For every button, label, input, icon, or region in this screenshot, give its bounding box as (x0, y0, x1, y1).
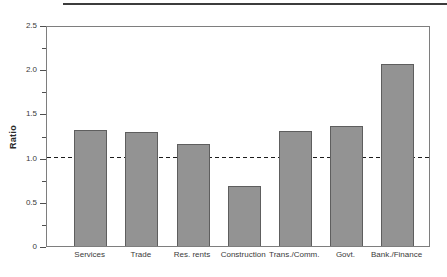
x-tick-label-res-rents: Res. rents (174, 251, 210, 259)
bar-bank-finance (381, 64, 414, 246)
x-tick-label-construction: Construction (221, 251, 266, 259)
x-tick-label-bank-finance: Bank./Finance (371, 251, 422, 259)
y-axis: 00.51.01.52.02.5 (0, 26, 46, 247)
y-tick-label-0: 0 (33, 243, 37, 251)
bar-construction (228, 186, 261, 246)
x-axis: ServicesTradeRes. rentsConstructionTrans… (46, 251, 430, 263)
x-tick-label-govt: Govt. (336, 251, 355, 259)
x-tick-label-trade: Trade (131, 251, 152, 259)
x-tick-label-services: Services (74, 251, 105, 259)
bar-chart-figure: Ratio 00.51.01.52.02.5 ServicesTradeRes.… (0, 0, 447, 277)
bar-trade (125, 132, 158, 246)
bar-govt (330, 126, 363, 246)
y-major-tick (40, 247, 46, 248)
y-tick-label-2-0: 2.0 (26, 66, 37, 74)
bar-res-rents (177, 144, 210, 246)
y-tick-label-0-5: 0.5 (26, 199, 37, 207)
x-tick-label-trans-comm: Trans./Comm. (269, 251, 319, 259)
bar-trans-comm (279, 131, 312, 246)
plot-area (46, 26, 430, 247)
y-tick-label-1-0: 1.0 (26, 155, 37, 163)
top-rule-divider (63, 3, 447, 5)
bar-services (74, 130, 107, 247)
y-tick-label-2-5: 2.5 (26, 22, 37, 30)
y-tick-label-1-5: 1.5 (26, 110, 37, 118)
